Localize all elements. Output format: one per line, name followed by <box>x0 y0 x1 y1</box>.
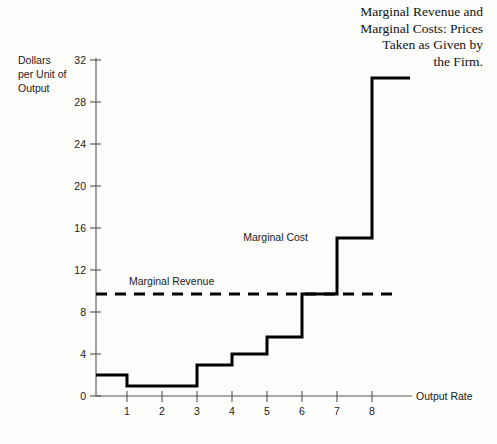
y-tick-label: 20 <box>74 180 86 192</box>
y-axis-tick-labels: 32 28 24 20 16 12 8 4 0 <box>74 54 86 402</box>
x-tick-label: 5 <box>264 405 270 417</box>
y-tick-label: 8 <box>80 306 86 318</box>
y-axis-title-line3: Output <box>18 82 50 94</box>
marginal-cost-revenue-chart: Dollars per Unit of Output 32 28 24 20 1… <box>0 0 497 444</box>
x-tick-label: 2 <box>159 405 165 417</box>
figure-page: Marginal Revenue and Marginal Costs: Pri… <box>0 0 497 444</box>
y-axis-title-line1: Dollars <box>18 54 51 66</box>
x-tick-label: 7 <box>334 405 340 417</box>
x-tick-label: 4 <box>229 405 235 417</box>
y-tick-label: 4 <box>80 348 86 360</box>
y-tick-label: 24 <box>74 138 86 150</box>
marginal-revenue-label: Marginal Revenue <box>129 275 214 287</box>
x-tick-label: 8 <box>369 405 375 417</box>
y-axis-title-line2: per Unit of <box>18 68 67 80</box>
x-tick-label: 3 <box>194 405 200 417</box>
x-axis-title: Output Rate <box>416 390 473 402</box>
x-axis-tick-labels: 1 2 3 4 5 6 7 8 <box>124 405 375 417</box>
y-tick-label: 32 <box>74 54 86 66</box>
y-tick-label: 16 <box>74 222 86 234</box>
y-tick-label: 0 <box>80 390 86 402</box>
y-tick-label: 28 <box>74 96 86 108</box>
x-tick-label: 6 <box>299 405 305 417</box>
x-tick-label: 1 <box>124 405 130 417</box>
y-tick-label: 12 <box>74 264 86 276</box>
marginal-cost-label: Marginal Cost <box>243 231 308 243</box>
